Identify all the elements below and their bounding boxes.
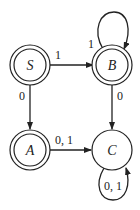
transition-label: 0: [19, 89, 25, 103]
state-label: C: [107, 143, 117, 158]
transition-s-a: 0: [19, 85, 30, 129]
transition-label: 0: [117, 89, 123, 103]
state-c: C: [92, 130, 132, 170]
transition-c-c: 0, 1: [99, 168, 128, 200]
state-label: B: [108, 58, 117, 73]
state-b: B: [92, 45, 132, 85]
transition-label: 1: [55, 48, 61, 62]
transition-a-c: 0, 1: [50, 133, 91, 150]
transition-label: 0, 1: [104, 179, 122, 193]
state-label: S: [27, 58, 34, 73]
transition-label: 0, 1: [55, 133, 73, 147]
transition-s-b: 1: [50, 48, 93, 65]
transition-label: 1: [88, 37, 94, 51]
state-s: S: [10, 45, 50, 85]
state-label: A: [25, 143, 35, 158]
transition-b-c: 0: [112, 85, 123, 129]
automaton-diagram: 1 0 1 0 0, 1 0, 1 S B A C: [0, 0, 140, 210]
state-a: A: [10, 130, 50, 170]
